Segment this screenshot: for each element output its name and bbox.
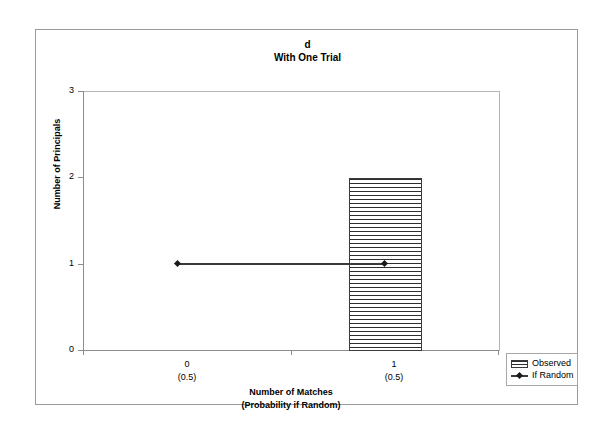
y-tick-2: 2 — [78, 177, 83, 178]
chart-legend: Observed If Random — [506, 353, 578, 386]
y-tick-label: 2 — [69, 171, 74, 181]
x-category-probability: (0.5) — [334, 371, 454, 384]
x-axis-title: Number of Matches (Probability if Random… — [83, 386, 499, 412]
x-category-value: 0 — [127, 358, 247, 371]
x-tick-start — [83, 350, 84, 355]
y-tick-3: 3 — [78, 91, 83, 92]
x-category-label-1: 1 (0.5) — [334, 358, 454, 384]
legend-item-observed: Observed — [511, 358, 573, 369]
chart-frame: d With One Trial 3 2 1 0 Number of Princ… — [35, 29, 578, 405]
legend-item-if-random: If Random — [511, 370, 573, 381]
y-tick-mark — [78, 264, 83, 265]
y-tick-label: 0 — [69, 344, 74, 354]
legend-label-if-random: If Random — [532, 370, 574, 381]
y-tick-mark — [78, 91, 83, 92]
chart-title: d — [36, 38, 579, 51]
x-category-value: 1 — [334, 358, 454, 371]
x-category-label-0: 0 (0.5) — [127, 358, 247, 384]
y-tick-1: 1 — [78, 264, 83, 265]
x-tick-mid — [291, 350, 292, 355]
legend-label-observed: Observed — [532, 358, 571, 369]
legend-diamond-marker — [516, 371, 523, 378]
x-axis-title-line2: (Probability if Random) — [83, 399, 499, 412]
x-tick-end — [498, 350, 499, 355]
x-category-probability: (0.5) — [127, 371, 247, 384]
y-tick-mark — [78, 177, 83, 178]
hatched-box-icon — [511, 360, 528, 368]
x-axis-title-line1: Number of Matches — [83, 386, 499, 399]
y-axis-line — [83, 91, 84, 350]
y-tick-label: 3 — [69, 85, 74, 95]
y-tick-label: 1 — [69, 258, 74, 268]
line-diamond-icon — [511, 372, 528, 380]
plot-area — [83, 91, 500, 351]
chart-subtitle: With One Trial — [36, 51, 579, 64]
chart-figure: d With One Trial 3 2 1 0 Number of Princ… — [0, 0, 612, 428]
y-axis-title: Number of Principals — [52, 64, 62, 264]
series-line-if-random — [177, 263, 385, 265]
